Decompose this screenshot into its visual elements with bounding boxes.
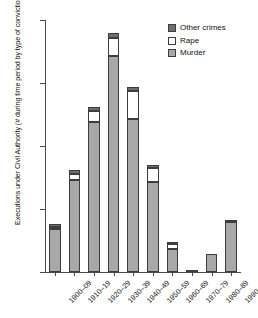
- x-tick-mark: [74, 272, 75, 276]
- x-tick-mark: [192, 272, 193, 276]
- legend-label: Other crimes: [180, 22, 226, 35]
- bar-chart: Executions under Civil Authority (# duri…: [0, 0, 258, 318]
- y-tick: 1,200: [45, 83, 46, 84]
- legend-item-rape: Rape: [168, 35, 226, 48]
- legend-swatch-icon: [168, 37, 176, 45]
- bar-segment-murder: [88, 122, 100, 272]
- bar-segment-murder: [49, 229, 61, 272]
- bar-segment-other-crimes: [108, 33, 120, 38]
- bar-segment-murder: [69, 180, 81, 272]
- bar-segment-rape: [127, 91, 139, 119]
- bar-1950-59: [147, 165, 159, 272]
- bar-1920-29: [88, 107, 100, 272]
- bar-segment-rape: [147, 168, 159, 182]
- bar-segment-other-crimes: [167, 242, 179, 244]
- bar-segment-other-crimes: [88, 107, 100, 111]
- bar-segment-murder: [127, 119, 139, 272]
- bar-segment-rape: [69, 174, 81, 180]
- bar-segment-other-crimes: [225, 220, 237, 222]
- legend-label: Rape: [180, 35, 199, 48]
- x-tick-mark: [153, 272, 154, 276]
- bar-segment-other-crimes: [147, 165, 159, 168]
- y-tick-mark: [40, 146, 45, 147]
- bar-segment-rape: [88, 111, 100, 122]
- x-tick-mark: [212, 272, 213, 276]
- x-tick-mark: [94, 272, 95, 276]
- x-tick-mark: [55, 272, 56, 276]
- y-tick-mark: [40, 209, 45, 210]
- x-tick-mark: [231, 272, 232, 276]
- bar-segment-murder: [108, 56, 120, 272]
- y-axis-title: Executions under Civil Authority (# duri…: [13, 0, 22, 235]
- bar-1910-19: [69, 170, 81, 272]
- bar-segment-rape: [108, 38, 120, 56]
- chart-legend: Other crimesRapeMurder: [168, 22, 226, 60]
- bar-segment-other-crimes: [49, 224, 61, 227]
- bar-1960-69: [167, 242, 179, 272]
- bar-1940-49: [127, 87, 139, 272]
- legend-label: Murder: [180, 47, 205, 60]
- y-tick-mark: [40, 272, 45, 273]
- y-tick: 400: [45, 209, 46, 210]
- bar-1980-89: [206, 254, 218, 272]
- bar-1990-98: [225, 221, 237, 272]
- legend-swatch-icon: [168, 49, 176, 57]
- bar-segment-murder: [147, 182, 159, 272]
- y-tick: 1,600: [45, 20, 46, 21]
- bar-1930-39: [108, 33, 120, 272]
- bar-segment-other-crimes: [69, 170, 81, 173]
- bar-segment-murder: [167, 249, 179, 272]
- bar-segment-murder: [225, 222, 237, 272]
- bar-1900-09: [49, 224, 61, 272]
- y-tick: 0: [45, 272, 46, 273]
- legend-item-other-crimes: Other crimes: [168, 22, 226, 35]
- bar-segment-murder: [206, 254, 218, 272]
- y-tick: 800: [45, 146, 46, 147]
- x-tick-mark: [172, 272, 173, 276]
- legend-item-murder: Murder: [168, 47, 226, 60]
- bar-segment-other-crimes: [127, 87, 139, 91]
- y-tick-mark: [40, 20, 45, 21]
- y-tick-mark: [40, 83, 45, 84]
- bar-segment-rape: [167, 244, 179, 249]
- x-tick-mark: [114, 272, 115, 276]
- legend-swatch-icon: [168, 24, 176, 32]
- x-tick-mark: [133, 272, 134, 276]
